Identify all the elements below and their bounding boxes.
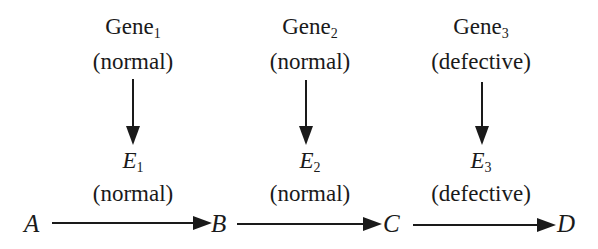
- gene-2-to-enzyme-2-arrow: [299, 80, 313, 145]
- arrows-layer: [0, 0, 598, 249]
- a-to-b-arrow: [52, 216, 212, 230]
- c-to-d-arrow: [413, 218, 556, 232]
- b-to-c-arrow: [237, 217, 382, 231]
- gene-1-to-enzyme-1-arrow: [126, 79, 140, 145]
- gene-3-to-enzyme-3-arrow: [475, 82, 489, 145]
